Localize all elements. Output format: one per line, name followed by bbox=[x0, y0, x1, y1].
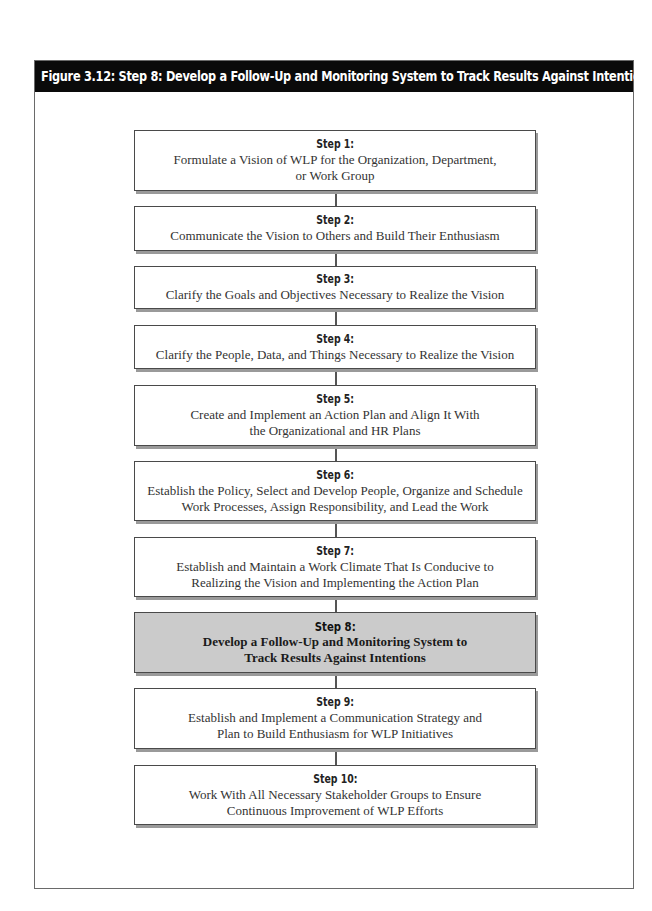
step-label: Step 8: bbox=[315, 619, 356, 634]
step-description-line: Formulate a Vision of WLP for the Organi… bbox=[166, 152, 505, 168]
step-description-line: Establish and Implement a Communication … bbox=[180, 710, 490, 726]
figure-title: Figure 3.12: Step 8: Develop a Follow-Up… bbox=[41, 61, 652, 92]
step-description-line: or Work Group bbox=[288, 168, 383, 184]
step-description-line: Establish and Maintain a Work Climate Th… bbox=[168, 559, 501, 575]
step-box-7: Step 7: Establish and Maintain a Work Cl… bbox=[134, 537, 536, 597]
connector-9-10 bbox=[335, 749, 337, 765]
connector-8-9 bbox=[335, 673, 337, 688]
step-description-line: Clarify the People, Data, and Things Nec… bbox=[148, 347, 522, 363]
connector-2-3 bbox=[335, 251, 337, 266]
step-box-6: Step 6: Establish the Policy, Select and… bbox=[134, 461, 536, 521]
step-box-1: Step 1: Formulate a Vision of WLP for th… bbox=[134, 130, 536, 191]
step-label: Step 2: bbox=[316, 213, 354, 228]
step-description-line: Work Processes, Assign Responsibility, a… bbox=[174, 499, 497, 515]
figure-title-bar: Figure 3.12: Step 8: Develop a Follow-Up… bbox=[35, 61, 633, 92]
step-box-10: Step 10: Work With All Necessary Stakeho… bbox=[134, 765, 536, 825]
step-description-line: Work With All Necessary Stakeholder Grou… bbox=[181, 787, 489, 803]
step-description-line: Realizing the Vision and Implementing th… bbox=[183, 575, 486, 591]
step-label: Step 10: bbox=[313, 772, 357, 787]
step-box-8-highlighted: Step 8: Develop a Follow-Up and Monitori… bbox=[134, 612, 536, 673]
step-description-line: Communicate the Vision to Others and Bui… bbox=[162, 228, 507, 244]
step-label: Step 1: bbox=[316, 137, 354, 152]
connector-7-8 bbox=[335, 597, 337, 612]
connector-4-5 bbox=[335, 369, 337, 385]
step-label: Step 7: bbox=[316, 544, 354, 559]
step-description-line: Clarify the Goals and Objectives Necessa… bbox=[158, 287, 513, 303]
step-description-line: Establish the Policy, Select and Develop… bbox=[139, 483, 530, 499]
step-box-4: Step 4: Clarify the People, Data, and Th… bbox=[134, 325, 536, 369]
step-description-line: Plan to Build Enthusiasm for WLP Initiat… bbox=[209, 726, 461, 742]
connector-1-2 bbox=[335, 191, 337, 206]
step-box-9: Step 9: Establish and Implement a Commun… bbox=[134, 688, 536, 749]
step-label: Step 9: bbox=[316, 695, 354, 710]
step-description-line: Create and Implement an Action Plan and … bbox=[182, 407, 487, 423]
step-label: Step 3: bbox=[316, 272, 354, 287]
step-label: Step 4: bbox=[316, 332, 354, 347]
connector-3-4 bbox=[335, 309, 337, 325]
step-description-line: Track Results Against Intentions bbox=[236, 650, 433, 666]
connector-6-7 bbox=[335, 521, 337, 537]
step-label: Step 5: bbox=[316, 392, 354, 407]
step-box-5: Step 5: Create and Implement an Action P… bbox=[134, 385, 536, 446]
step-box-2: Step 2: Communicate the Vision to Others… bbox=[134, 206, 536, 251]
step-label: Step 6: bbox=[316, 468, 354, 483]
step-box-3: Step 3: Clarify the Goals and Objectives… bbox=[134, 266, 536, 309]
step-description-line: the Organizational and HR Plans bbox=[242, 423, 429, 439]
step-description-line: Continuous Improvement of WLP Efforts bbox=[219, 803, 451, 819]
connector-5-6 bbox=[335, 446, 337, 461]
step-description-line: Develop a Follow-Up and Monitoring Syste… bbox=[195, 634, 475, 650]
